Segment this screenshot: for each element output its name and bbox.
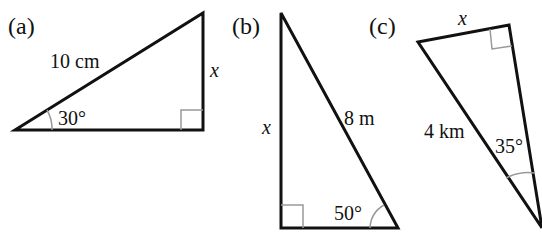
angle-label-a: 30° — [58, 107, 86, 129]
angle-arc-c — [506, 173, 535, 178]
triangle-a — [15, 13, 203, 130]
angle-label-c: 35° — [495, 135, 523, 157]
figure-a: (a) 10 cm x 30° — [8, 13, 219, 130]
right-angle-marker-a — [181, 110, 203, 130]
unknown-label-b: x — [261, 116, 271, 138]
triangle-diagrams: (a) 10 cm x 30° (b) 8 m x 50° (c) 4 km x… — [0, 0, 542, 243]
hypotenuse-label-c: 4 km — [424, 120, 465, 142]
angle-arc-b — [370, 205, 384, 228]
right-angle-marker-b — [281, 205, 303, 228]
triangle-b — [281, 13, 398, 228]
figure-c: (c) 4 km x 35° — [369, 7, 542, 228]
figure-b-label: (b) — [232, 13, 260, 39]
angle-arc-a — [47, 110, 52, 130]
unknown-label-c: x — [457, 7, 467, 29]
figure-a-label: (a) — [8, 13, 35, 39]
hypotenuse-label-a: 10 cm — [50, 50, 100, 72]
figure-b: (b) 8 m x 50° — [232, 13, 398, 228]
angle-label-b: 50° — [334, 202, 362, 224]
unknown-label-a: x — [209, 59, 219, 81]
figure-c-label: (c) — [369, 13, 396, 39]
hypotenuse-label-b: 8 m — [344, 107, 375, 129]
